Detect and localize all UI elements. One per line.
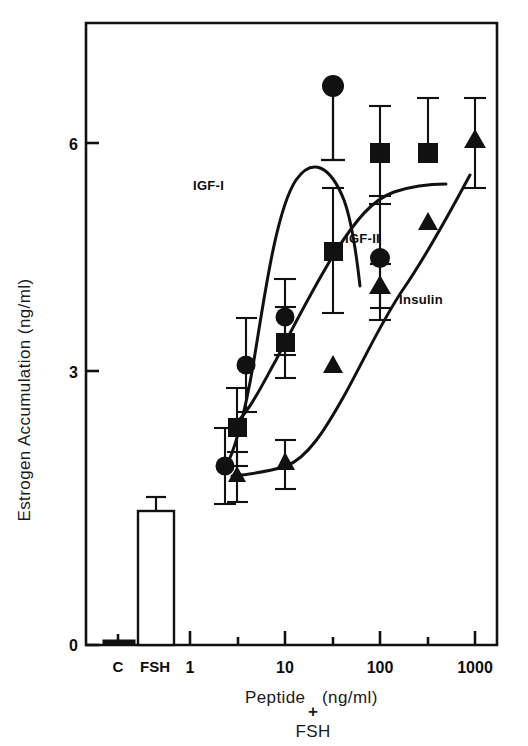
series-curves: [225, 167, 470, 476]
y-axis-ticks: [86, 143, 99, 645]
series-label-igf-ii: IGF-II: [345, 231, 380, 246]
series-igf-i-points: [214, 75, 391, 504]
series-label-igf-i: IGF-I: [193, 178, 224, 193]
bar-fsh: [138, 497, 174, 645]
x-tick-label-100: 100: [367, 659, 394, 676]
x-axis-title-plus: +: [308, 702, 318, 721]
x-axis-title-peptide: Peptide: [245, 688, 305, 707]
series-label-insulin: Insulin: [399, 292, 443, 307]
chart-canvas: 0 3 6 Estrogen Accumulation (ng/ml) C FS…: [0, 0, 528, 746]
data-point-insulin-300: [418, 212, 438, 230]
data-point-igf-i-30: [321, 75, 345, 160]
x-tick-label-10: 10: [276, 659, 294, 676]
data-point-insulin-10: [275, 440, 296, 489]
y-axis-tick-labels: 0 3 6: [69, 136, 78, 654]
y-tick-label-0: 0: [69, 637, 78, 654]
data-point-insulin-30: [323, 355, 343, 373]
x-axis-title-fsh: FSH: [295, 722, 330, 741]
estrogen-accumulation-dose-response-figure: 0 3 6 Estrogen Accumulation (ng/ml) C FS…: [0, 0, 528, 746]
x-label-control: C: [113, 658, 124, 675]
series-insulin-points: [227, 98, 486, 502]
data-point-igf-ii-300: [417, 98, 439, 163]
x-axis-title-units: (ng/ml): [322, 688, 378, 707]
y-tick-label-6: 6: [69, 136, 78, 153]
bar-control: [103, 640, 135, 645]
y-tick-label-3: 3: [69, 364, 78, 381]
y-axis-title: Estrogen Accumulation (ng/ml): [15, 278, 34, 521]
x-axis-title: Peptide (ng/ml) + FSH: [245, 688, 378, 741]
data-point-insulin-100: [369, 264, 391, 308]
x-tick-label-1000: 1000: [457, 659, 493, 676]
data-point-igf-ii-30: [322, 188, 344, 313]
data-point-insulin-1000: [464, 98, 486, 188]
y-axis-title-text: Estrogen Accumulation (ng/ml): [15, 278, 34, 521]
x-label-fsh: FSH: [140, 658, 170, 675]
x-tick-label-1: 1: [186, 659, 195, 676]
data-point-igf-ii-100: [369, 106, 391, 204]
x-axis-tick-labels: C FSH 1 10 100 1000: [113, 658, 493, 676]
